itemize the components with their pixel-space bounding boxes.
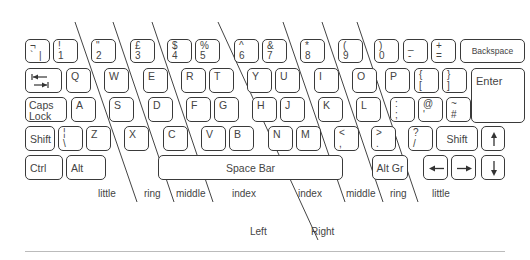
key-space-bar[interactable]: Space Bar [158, 155, 343, 180]
key-u[interactable]: U [275, 68, 300, 93]
key-equals[interactable]: + = [431, 39, 456, 63]
key-e[interactable]: E [143, 68, 168, 93]
key-z[interactable]: Z [86, 126, 111, 151]
key-bottom-char: \ [63, 138, 66, 149]
arrow-left-icon [424, 156, 449, 181]
key-l[interactable]: L [356, 97, 381, 122]
key-caps-lock[interactable]: Caps Lock [25, 97, 67, 122]
key-bottom-char: # [451, 109, 457, 120]
finger-label-left-little: little [98, 188, 116, 199]
key-k[interactable]: K [318, 97, 343, 122]
key-x[interactable]: X [124, 126, 149, 151]
key-enter[interactable]: Enter [471, 68, 525, 123]
key-right-shift[interactable]: Shift [436, 126, 478, 151]
key-tab[interactable] [25, 68, 62, 93]
key-label: Y [252, 71, 259, 82]
tab-arrows-icon [26, 69, 63, 94]
finger-label-right-middle: middle [346, 188, 375, 199]
key-label: Alt Gr [373, 162, 407, 173]
key-d[interactable]: D [148, 97, 173, 122]
key-bottom-char: 2 [96, 50, 102, 61]
key-label-line2: Lock [29, 110, 51, 122]
key-label: R [186, 71, 194, 82]
key-c[interactable]: C [163, 126, 188, 151]
key-backtick[interactable]: ¬ ` | [25, 39, 50, 63]
hand-label-left: Left [250, 226, 267, 237]
key-label: Z [91, 129, 97, 140]
key-quote[interactable]: @ ' [418, 97, 443, 122]
key-q[interactable]: Q [66, 68, 91, 93]
key-alt[interactable]: Alt [66, 155, 106, 180]
key-label: A [76, 100, 83, 111]
key-i[interactable]: I [314, 68, 339, 93]
key-semicolon[interactable]: : ; [390, 97, 415, 122]
key-3[interactable]: £ 3 [130, 39, 155, 63]
key-s[interactable]: S [109, 97, 134, 122]
key-o[interactable]: O [352, 68, 377, 93]
key-arrow-left[interactable] [423, 155, 448, 180]
key-1[interactable]: ! 1 [53, 39, 78, 63]
key-9[interactable]: ( 9 [338, 39, 363, 63]
key-g[interactable]: G [214, 97, 239, 122]
key-f[interactable]: F [186, 97, 211, 122]
key-a[interactable]: A [71, 97, 96, 122]
key-8[interactable]: * 8 [300, 39, 325, 63]
key-label: Shift [30, 133, 51, 144]
arrow-down-icon [482, 156, 506, 181]
key-y[interactable]: Y [247, 68, 272, 93]
key-b[interactable]: B [229, 126, 254, 151]
key-period[interactable]: > . [371, 126, 396, 151]
hand-label-right: Right [311, 226, 334, 237]
key-ctrl[interactable]: Ctrl [25, 155, 63, 180]
key-bottom-char: [ [419, 80, 422, 91]
key-t[interactable]: T [209, 68, 234, 93]
key-arrow-up[interactable] [481, 126, 505, 151]
key-right-brace[interactable]: } ] [442, 68, 467, 93]
key-label: N [273, 129, 281, 140]
key-m[interactable]: M [296, 126, 321, 151]
key-label: K [323, 100, 330, 111]
key-0[interactable]: ) 0 [374, 39, 399, 63]
key-top-char: ~ [451, 99, 457, 109]
key-j[interactable]: J [280, 97, 305, 122]
key-left-brace[interactable]: { [ [414, 68, 439, 93]
key-bottom-char: 0 [379, 50, 385, 61]
key-label: C [168, 129, 176, 140]
key-bottom-char: 8 [305, 50, 311, 61]
key-label: V [206, 129, 213, 140]
key-arrow-down[interactable] [481, 155, 505, 180]
key-label: J [285, 100, 290, 111]
key-n[interactable]: N [268, 126, 293, 151]
key-arrow-right[interactable] [451, 155, 476, 180]
divider [25, 251, 505, 252]
key-4[interactable]: $ 4 [167, 39, 192, 63]
finger-label-right-little: little [432, 188, 450, 199]
key-label: L [361, 100, 367, 111]
key-6[interactable]: ^ 6 [234, 39, 259, 63]
key-hash[interactable]: ~ # [446, 97, 471, 122]
key-top-char: } [447, 70, 450, 80]
key-p[interactable]: P [385, 68, 410, 93]
key-label: Caps Lock [29, 100, 54, 122]
key-label: F [191, 100, 197, 111]
key-2[interactable]: " 2 [91, 39, 116, 63]
key-label: E [148, 71, 155, 82]
key-slash[interactable]: ? / [408, 126, 433, 151]
key-w[interactable]: W [104, 68, 129, 93]
key-backslash[interactable]: ¦ \ [58, 126, 83, 151]
key-7[interactable]: & 7 [262, 39, 287, 63]
key-backspace[interactable]: Backspace [460, 39, 525, 63]
key-comma[interactable]: < , [334, 126, 359, 151]
key-v[interactable]: V [201, 126, 226, 151]
key-bottom-char: 7 [267, 50, 273, 61]
key-r[interactable]: R [181, 68, 206, 93]
key-minus[interactable]: _ - [403, 39, 428, 63]
key-label: Backspace [461, 46, 524, 57]
key-5[interactable]: % 5 [195, 39, 220, 63]
finger-label-right-index: index [298, 188, 322, 199]
key-label: Space Bar [159, 162, 342, 173]
key-left-shift[interactable]: Shift [25, 126, 55, 151]
key-h[interactable]: H [252, 97, 277, 122]
key-label: G [219, 100, 227, 111]
key-alt-gr[interactable]: Alt Gr [372, 155, 408, 180]
